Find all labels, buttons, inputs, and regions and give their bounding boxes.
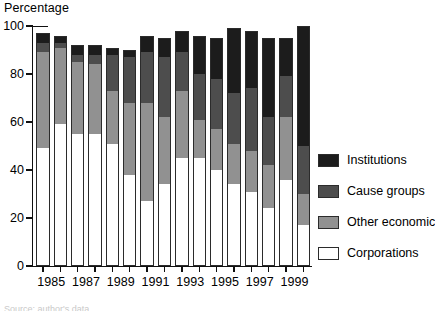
bar-1991 — [140, 26, 153, 266]
bar-segment — [297, 26, 310, 146]
bar-1993 — [175, 26, 188, 266]
bar-segment — [279, 38, 292, 76]
bar-segment — [175, 158, 188, 266]
y-axis-tick-label: 40 — [0, 164, 24, 177]
bar-segment — [175, 52, 188, 90]
x-axis-tick — [94, 266, 95, 272]
bar-segment — [36, 148, 49, 266]
bar-segment — [71, 45, 84, 55]
bar-segment — [123, 50, 136, 57]
y-axis-tick-label: 0 — [0, 260, 24, 273]
y-axis-tick — [26, 265, 33, 266]
x-axis-tick — [216, 266, 217, 272]
bar-segment — [193, 74, 206, 120]
bar-segment — [158, 38, 171, 57]
x-axis-tick — [268, 266, 269, 272]
legend-swatch-other_economic — [318, 216, 339, 229]
legend-label-other_economic: Other economic — [347, 216, 435, 229]
bar-segment — [227, 28, 240, 93]
legend-swatch-corporations — [318, 247, 339, 260]
bar-segment — [245, 31, 258, 89]
legend-label-corporations: Corporations — [347, 247, 419, 260]
bar-2000 — [297, 26, 310, 266]
bar-1999 — [279, 26, 292, 266]
x-axis-tick — [199, 266, 200, 272]
bar-1990 — [123, 26, 136, 266]
y-axis-tick — [26, 169, 33, 170]
bar-segment — [71, 62, 84, 134]
bar-1995 — [210, 26, 223, 266]
bar-segment — [279, 76, 292, 117]
bar-segment — [140, 36, 153, 53]
bar-segment — [140, 52, 153, 102]
legend-swatch-cause_groups — [318, 185, 339, 198]
bar-segment — [158, 57, 171, 117]
bar-segment — [175, 31, 188, 53]
x-axis-tick — [146, 266, 147, 272]
x-axis-tick-label: 1991 — [142, 276, 170, 289]
bar-segment — [210, 38, 223, 79]
bar-segment — [123, 175, 136, 266]
bar-segment — [71, 134, 84, 266]
x-axis-tick — [77, 266, 78, 272]
x-axis-tick — [164, 266, 165, 272]
y-axis-tick-label: 100 — [0, 20, 24, 33]
y-axis-tick — [26, 217, 33, 218]
x-axis-tick — [60, 266, 61, 272]
bar-1987 — [71, 26, 84, 266]
bar-segment — [88, 134, 101, 266]
x-axis-tick-label: 1987 — [72, 276, 100, 289]
x-axis-tick — [233, 266, 234, 272]
bar-segment — [297, 146, 310, 194]
bar-segment — [123, 57, 136, 103]
bar-segment — [262, 38, 275, 117]
y-axis-tick-label: 60 — [0, 116, 24, 129]
y-axis-tick — [26, 121, 33, 122]
bar-segment — [297, 194, 310, 225]
bar-segment — [88, 64, 101, 134]
bar-segment — [158, 184, 171, 266]
bar-segment — [297, 225, 310, 266]
bar-segment — [140, 103, 153, 201]
bar-segment — [88, 55, 101, 65]
bar-segment — [210, 170, 223, 266]
bar-segment — [54, 36, 67, 43]
bar-segment — [262, 165, 275, 208]
bar-segment — [88, 45, 101, 55]
x-axis-tick — [285, 266, 286, 272]
bar-1992 — [158, 26, 171, 266]
bar-1998 — [262, 26, 275, 266]
x-axis-tick — [303, 266, 304, 272]
bar-segment — [54, 124, 67, 266]
x-axis-tick-label: 1993 — [176, 276, 204, 289]
bar-segment — [210, 79, 223, 129]
y-axis-tick — [26, 25, 33, 26]
x-axis-tick — [42, 266, 43, 272]
bar-segment — [227, 144, 240, 185]
bar-1997 — [245, 26, 258, 266]
bar-1989 — [106, 26, 119, 266]
bar-segment — [106, 55, 119, 91]
legend-item-corporations: Corporations — [318, 245, 419, 261]
bar-segment — [36, 52, 49, 148]
bar-segment — [279, 180, 292, 266]
x-axis-tick — [112, 266, 113, 272]
plot-area — [33, 26, 311, 266]
legend-item-other_economic: Other economic — [318, 214, 435, 230]
bar-segment — [54, 43, 67, 48]
legend-swatch-institutions — [318, 154, 339, 167]
bar-segment — [262, 208, 275, 266]
bar-segment — [227, 184, 240, 266]
bar-segment — [71, 55, 84, 62]
x-axis-tick-label: 1995 — [211, 276, 239, 289]
bar-segment — [175, 91, 188, 158]
legend-label-cause_groups: Cause groups — [347, 185, 425, 198]
bar-segment — [245, 192, 258, 266]
x-axis-tick-label: 1989 — [107, 276, 135, 289]
bar-1996 — [227, 26, 240, 266]
bar-segment — [123, 103, 136, 175]
legend-item-institutions: Institutions — [318, 152, 407, 168]
bar-segment — [54, 48, 67, 125]
x-axis-tick-label: 1999 — [281, 276, 309, 289]
